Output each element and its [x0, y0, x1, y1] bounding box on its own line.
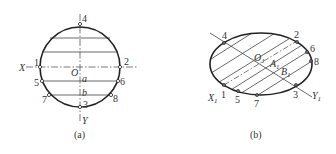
caption-a: (a) [74, 129, 85, 141]
axis-y1-label: Y1 [312, 90, 321, 103]
label-5: 5 [235, 94, 240, 105]
label-4: 4 [222, 30, 227, 41]
axis-y-label: Y [82, 115, 89, 126]
label-2: 2 [124, 56, 129, 67]
diagram-canvas: 4 1 2 3 5 6 7 8 X Y O a b (a) [0, 0, 336, 154]
label-3: 3 [293, 89, 298, 100]
axis-x-label: X [18, 62, 26, 73]
label-1: 1 [221, 89, 226, 100]
label-8: 8 [113, 93, 118, 104]
label-8: 8 [314, 56, 319, 67]
label-6: 6 [310, 43, 315, 54]
caption-b: (b) [250, 129, 262, 141]
figure-b: 4 2 6 8 1 5 7 3 X1 Y1 O1 A1 B1 (b) [200, 28, 321, 141]
point-2 [118, 65, 121, 68]
point-2 [295, 40, 298, 43]
point-6 [305, 50, 308, 53]
label-6: 6 [120, 76, 125, 87]
point-3 [294, 83, 297, 86]
point-5 [40, 79, 43, 82]
point-5 [236, 89, 239, 92]
figure-a: 4 1 2 3 5 6 7 8 X Y O a b (a) [18, 13, 138, 141]
label-3: 3 [83, 99, 88, 110]
point-3 [78, 105, 81, 108]
point-8 [309, 59, 312, 62]
label-5: 5 [34, 77, 39, 88]
center-o1-label: O1 [254, 52, 265, 65]
label-4: 4 [82, 13, 87, 24]
point-7 [47, 93, 50, 96]
point-7 [255, 93, 258, 96]
label-7: 7 [254, 98, 259, 109]
chord-line [200, 32, 300, 94]
label-1: 1 [34, 57, 39, 68]
label-7: 7 [42, 94, 47, 105]
chord-b-label: b [82, 87, 87, 98]
chord-a-label: a [82, 73, 87, 84]
label-2: 2 [294, 29, 299, 40]
point-4 [222, 41, 225, 44]
axis-x1-label: X1 [207, 92, 218, 105]
point-1 [222, 83, 225, 86]
center-o-label: O [71, 67, 78, 78]
